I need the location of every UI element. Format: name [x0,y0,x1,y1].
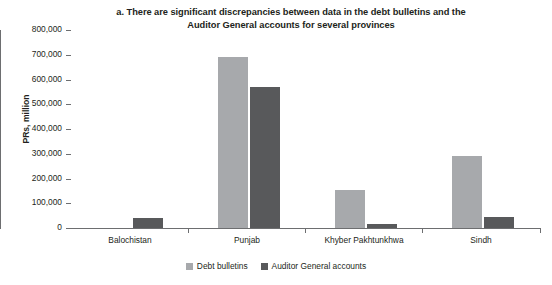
y-tick-0 [66,228,71,229]
legend-label-auditor-general-accounts: Auditor General accounts [272,261,367,271]
chart-title: a. There are significant discrepancies b… [76,6,506,32]
x-tick-label-khyber-pakhtunkhwa: Khyber Pakhtunkhwa [306,235,422,245]
y-tick-800000 [66,30,71,31]
chart-title-line-1: a. There are significant discrepancies b… [76,6,506,19]
y-tick-label-100000: 100,000 [2,198,62,207]
bar-punjab-auditor-general [250,87,280,228]
y-tick-500000 [66,104,71,105]
y-tick-label-200000: 200,000 [2,174,62,183]
y-tick-label-wrap-200000: 200,000 [0,174,62,183]
y-tick-label-0: 0 [2,223,62,232]
x-tick-separator-2 [305,228,306,233]
y-tick-100000 [66,203,71,204]
dark-gray-square-icon [261,263,268,270]
y-tick-600000 [66,80,71,81]
y-tick-label-wrap-600000: 600,000 [0,75,62,84]
y-tick-label-300000: 300,000 [2,149,62,158]
bar-sindh-auditor-general [484,217,514,228]
y-tick-label-wrap-0: 0 [0,223,62,232]
bar-punjab-debt-bulletins [218,57,248,228]
y-tick-label-wrap-100000: 100,000 [0,198,62,207]
y-tick-300000 [66,154,71,155]
y-tick-label-wrap-300000: 300,000 [0,149,62,158]
x-tick-separator-3 [422,228,423,233]
y-tick-label-500000: 500,000 [2,99,62,108]
chart-legend: Debt bulletins Auditor General accounts [0,261,552,271]
legend-label-debt-bulletins: Debt bulletins [197,261,248,271]
y-tick-400000 [66,129,71,130]
legend-item-debt-bulletins: Debt bulletins [186,261,248,271]
bar-khyber-pakhtunkhwa-debt-bulletins [335,190,365,228]
y-tick-label-wrap-500000: 500,000 [0,99,62,108]
x-tick-separator-1 [188,228,189,233]
y-tick-label-wrap-400000: 400,000 [0,124,62,133]
bar-sindh-debt-bulletins [452,156,482,228]
bar-balochistan-auditor-general [133,218,163,228]
y-tick-label-800000: 800,000 [2,25,62,34]
y-tick-label-wrap-800000: 800,000 [0,25,62,34]
x-tick-separator-4 [540,228,541,233]
x-tick-label-sindh: Sindh [423,235,539,245]
y-tick-200000 [66,179,71,180]
x-tick-label-balochistan: Balochistan [72,235,188,245]
y-tick-label-700000: 700,000 [2,50,62,59]
legend-item-auditor-general-accounts: Auditor General accounts [261,261,367,271]
y-tick-label-wrap-700000: 700,000 [0,50,62,59]
x-axis-line [71,228,541,229]
bar-chart-figure: a. There are significant discrepancies b… [0,0,552,285]
light-gray-square-icon [186,263,193,270]
y-tick-label-400000: 400,000 [2,124,62,133]
x-tick-label-punjab: Punjab [189,235,305,245]
y-tick-700000 [66,55,71,56]
chart-title-line-2: Auditor General accounts for several pro… [76,19,506,32]
y-tick-label-600000: 600,000 [2,75,62,84]
bar-khyber-pakhtunkhwa-auditor-general [367,224,397,228]
